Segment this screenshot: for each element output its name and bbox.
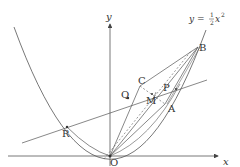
point-r-label: R [62,128,70,139]
svg-text:2: 2 [210,19,214,26]
svg-text:2: 2 [221,11,225,18]
line-rqp [22,80,207,143]
point-p-dot [175,88,177,90]
point-m-label: M [146,95,156,106]
segment-oa [110,104,165,156]
segment-ab-2 [167,47,200,104]
diagram-canvas: y x O A B C P Q M R y = 1 2 x 2 [0,0,240,167]
point-q-label: Q [121,89,129,100]
point-o-label: O [110,157,118,167]
point-c-label: C [138,75,146,86]
point-a-label: A [167,103,176,114]
segment-cb [140,47,198,86]
curve-or [67,127,110,156]
curve-equation-label: y = 1 2 x 2 [188,11,225,26]
point-p-label: P [163,82,170,93]
point-b-label: B [199,42,206,53]
y-axis-label: y [105,11,112,22]
svg-text:y =: y = [188,14,205,24]
x-axis-label: x [223,156,229,167]
svg-text:x: x [215,14,220,24]
segment-ab [165,47,198,104]
svg-text:1: 1 [210,11,214,18]
